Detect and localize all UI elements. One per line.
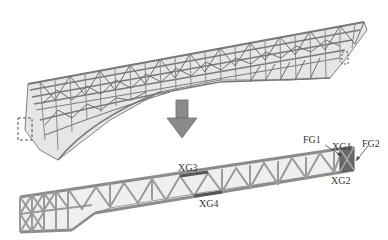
label-xg4: XG4 xyxy=(199,199,218,209)
down-arrow-icon xyxy=(167,100,197,138)
label-fg1: FG1 xyxy=(303,135,321,145)
label-xg2: XG2 xyxy=(331,176,350,186)
bottom-truss-model xyxy=(20,145,368,232)
label-fg2: FG2 xyxy=(362,139,380,149)
figure-canvas xyxy=(0,0,388,240)
label-xg3: XG3 xyxy=(178,163,197,173)
label-xg1: XG1 xyxy=(332,142,351,152)
